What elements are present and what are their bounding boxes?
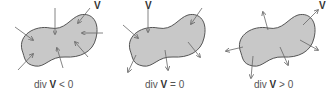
panel-zero-divergence: V xyxy=(123,0,205,72)
vector-label: V xyxy=(319,0,326,11)
vector-label: V xyxy=(145,0,152,11)
vector-label: V xyxy=(94,0,101,11)
panel-positive-divergence: V xyxy=(226,0,326,78)
caption-prefix: div xyxy=(254,79,270,90)
caption-prefix: div xyxy=(145,79,161,90)
caption-negative: div V < 0 xyxy=(34,79,73,90)
caption-positive: div V > 0 xyxy=(254,79,293,90)
caption-prefix: div xyxy=(34,79,50,90)
caption-suffix: < 0 xyxy=(56,79,73,90)
caption-suffix: > 0 xyxy=(276,79,293,90)
caption-suffix: = 0 xyxy=(167,79,184,90)
panel-negative-divergence: V xyxy=(15,0,103,70)
caption-zero: div V = 0 xyxy=(145,79,184,90)
